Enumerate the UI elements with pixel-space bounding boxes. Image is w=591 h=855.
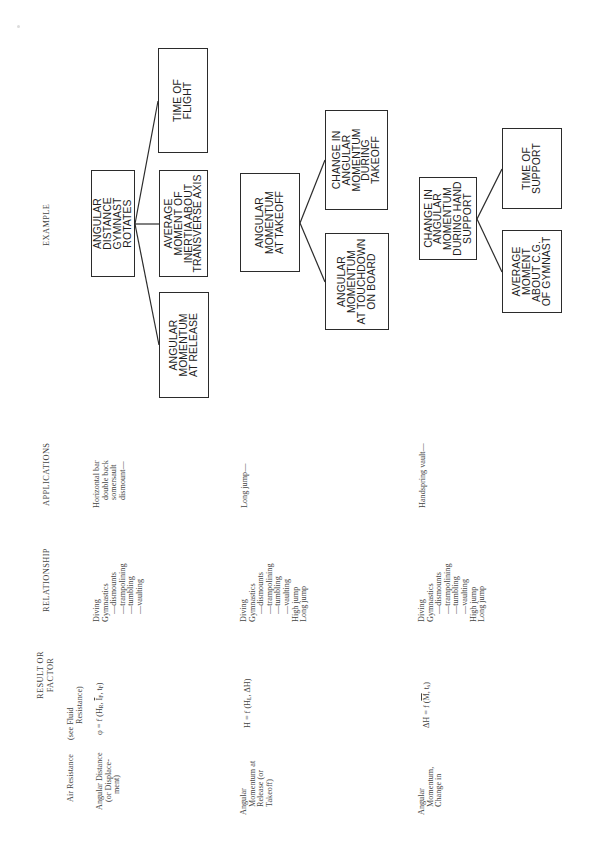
box-label: ANGULAR MOMENTUM AT TOUCHDOWN ON BOARD: [337, 239, 376, 325]
diagram-box-angular-distance-root: ANGULAR DISTANCE GYMNAST ROTATES: [91, 170, 135, 277]
diagram-box-angular-momentum-at-takeoff: ANGULAR MOMENTUM AT TAKEOFF: [240, 173, 300, 272]
box-label: ANGULAR MOMENTUM AT RELEASE: [169, 313, 198, 377]
diagram-box-angular-momentum-at-touchdown: ANGULAR MOMENTUM AT TOUCHDOWN ON BOARD: [325, 233, 389, 330]
rotated-page: RESULT OR FACTOR RELATIONSHIP APPLICATIO…: [0, 0, 591, 855]
diagram-box-change-during-hand-support: CHANGE IN ANGULAR MOMENTUM DURING HAND S…: [419, 177, 477, 260]
diagram-box-time-of-flight: TIME OF FLIGHT: [158, 48, 208, 153]
box-label: AVERAGE MOMENT OF INERTIA ABOUT TRANSVER…: [164, 175, 203, 273]
diagram-box-change-during-takeoff: CHANGE IN ANGULAR MOMENTUM DURING TAKEOF…: [325, 110, 388, 210]
diagram-box-average-moment-of-inertia: AVERAGE MOMENT OF INERTIA ABOUT TRANSVER…: [159, 170, 208, 277]
box-label: CHANGE IN ANGULAR MOMENTUM DURING HAND S…: [424, 181, 473, 255]
diagram-box-time-of-support: TIME OF SUPPORT: [502, 128, 562, 209]
diagram-box-angular-momentum-at-release: ANGULAR MOMENTUM AT RELEASE: [159, 292, 209, 398]
box-label: TIME OF SUPPORT: [522, 143, 542, 194]
box-label: CHANGE IN ANGULAR MOMENTUM DURING TAKEOF…: [332, 128, 381, 191]
box-label: AVERAGE MOMENT ABOUT C.G. OF GYMNAST: [512, 237, 551, 307]
box-label: TIME OF FLIGHT: [173, 79, 193, 122]
box-label: ANGULAR MOMENTUM AT TAKEOFF: [255, 191, 284, 254]
diagram-box-average-moment-about-cg: AVERAGE MOMENT ABOUT C.G. OF GYMNAST: [502, 230, 562, 313]
box-label: ANGULAR DISTANCE GYMNAST ROTATES: [93, 197, 132, 250]
